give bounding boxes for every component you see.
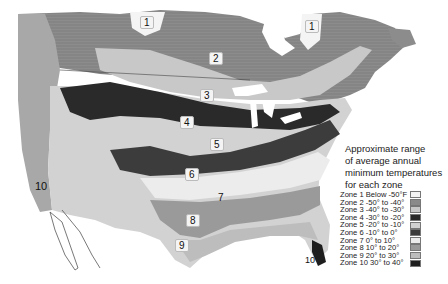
legend-swatch xyxy=(410,214,421,221)
legend-swatch xyxy=(410,229,421,236)
legend-swatch xyxy=(410,260,421,267)
legend-swatch xyxy=(410,199,421,206)
zone-label-4: 4 xyxy=(180,116,194,129)
zone-label-3: 3 xyxy=(200,89,214,102)
legend-swatch xyxy=(410,244,421,251)
legend-title-line: of average annual xyxy=(345,155,445,167)
legend-swatch xyxy=(410,237,421,244)
zone-label-10-west: 10 xyxy=(32,181,50,192)
legend-label: Zone 10 30° to 40° xyxy=(340,259,409,267)
zone-label-2: 2 xyxy=(209,52,223,65)
zone-label-7: 7 xyxy=(215,192,227,203)
zone-label-9: 9 xyxy=(175,239,189,252)
legend-swatch xyxy=(410,191,421,198)
zone-label-1: 1 xyxy=(140,16,154,29)
zone-label-5: 5 xyxy=(210,138,224,151)
legend-title-line: minimum temperatures xyxy=(345,167,445,179)
zone-label-1-east: 1 xyxy=(305,20,319,33)
zone-legend: Zone 1 Below -50°FZone 2 -50° to -40°Zon… xyxy=(340,191,421,267)
zone-label-10-florida: 10 xyxy=(302,255,318,266)
legend-row: Zone 10 30° to 40° xyxy=(340,259,421,267)
legend-swatch xyxy=(410,206,421,213)
baja-california xyxy=(50,212,78,270)
legend-swatch xyxy=(410,222,421,229)
legend-title: Approximate range of average annual mini… xyxy=(345,143,445,191)
legend-title-line: Approximate range xyxy=(345,143,445,155)
legend-swatch xyxy=(410,252,421,259)
zone-label-8: 8 xyxy=(186,214,200,227)
zone-label-6: 6 xyxy=(185,168,199,181)
